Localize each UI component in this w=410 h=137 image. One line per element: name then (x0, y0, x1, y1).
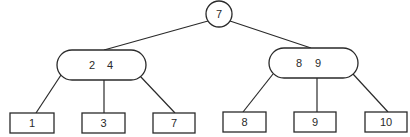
node-key: 8 (296, 57, 302, 69)
leaf-node: 10 (365, 112, 407, 132)
edge-left-to-leaf-7 (140, 76, 175, 113)
leaf-node: 1 (10, 113, 54, 133)
tree-canvas: 724891378910 (0, 0, 410, 137)
leaf-node: 9 (294, 112, 336, 132)
edge-left-to-leaf-1 (36, 75, 61, 113)
leaf-label: 8 (241, 116, 247, 128)
edge-right-to-leaf-8 (243, 74, 273, 112)
internal-node-left: 24 (57, 50, 146, 80)
node-key: 2 (89, 59, 95, 71)
leaf-node: 3 (82, 113, 125, 133)
pill-shape (57, 50, 146, 80)
leaf-node: 8 (223, 112, 266, 132)
node-key: 4 (107, 59, 113, 71)
edge-root-to-right (230, 21, 311, 48)
leaf-label: 10 (380, 116, 392, 128)
leaf-label: 9 (312, 116, 318, 128)
tree-diagram: 724891378910 (0, 0, 410, 137)
root-key: 7 (216, 8, 222, 20)
leaf-label: 1 (29, 117, 35, 129)
edge-right-to-leaf-10 (353, 74, 388, 112)
node-key: 9 (315, 57, 321, 69)
leaf-label: 3 (100, 117, 106, 129)
pill-shape (269, 48, 358, 78)
leaf-node: 7 (153, 113, 195, 133)
nodes-layer: 724891378910 (10, 1, 407, 133)
edge-root-to-left (104, 21, 208, 50)
internal-node-right: 89 (269, 48, 358, 78)
root-node: 7 (206, 1, 232, 27)
leaf-label: 7 (171, 117, 177, 129)
